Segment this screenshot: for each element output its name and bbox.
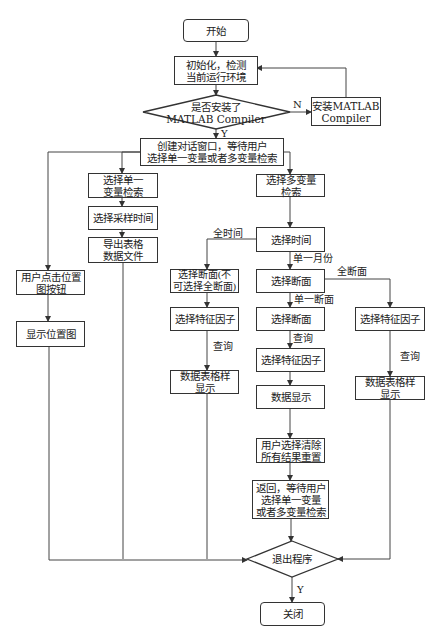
edge-label-yes-bottom: Y [297,584,304,595]
edge-label-query-mid: 查询 [293,333,313,344]
init-node: 初始化，检测 当前运行环境 [174,56,258,85]
create-dialog-node: 创建对话窗口，等待用户 选择单一变量或者多变量检索 [140,138,284,166]
install-line-2: Compiler [312,112,379,124]
start-node: 开始 [183,19,249,42]
select-section-a-label: 选择断面 [271,275,311,287]
section-partial-line-1: 选择断面(不 [173,269,237,281]
edge-label-all-time: 全时间 [213,228,243,239]
edge-label-single-month: 单一月份 [293,253,333,264]
multi-var-node: 选择多变量 检索 [256,174,325,197]
return-wait-node: 返回，等待用户 选择单一变量 或者多变量检索 [252,480,329,519]
select-section-partial-node: 选择断面(不 可选择全断面) [170,269,239,293]
table-display-right-node: 数据表格样 显示 [355,376,425,400]
export-line-1: 导出表格 [103,238,143,250]
select-factor-mid-node: 选择特征因子 [256,348,325,372]
edge-label-query-left: 查询 [213,341,233,352]
show-location-node: 显示位置图 [16,321,85,347]
check-matlab-text: 是否安装了 MATLAB Compiler [160,99,272,126]
multi-var-line-2: 检索 [266,186,316,198]
click-location-node: 用户点击位置 图按钮 [16,270,85,295]
exit-program-label: 退出程序 [272,553,312,565]
edge-label-all-section: 全断面 [337,266,367,277]
return-line-2: 选择单一变量 [256,494,326,506]
table-display-left-node: 数据表格样 显示 [170,370,239,394]
create-dialog-line-1: 创建对话窗口，等待用户 [147,140,277,152]
click-location-line-2: 图按钮 [21,283,81,295]
close-node: 关闭 [260,602,325,626]
table-left-line-1: 数据表格样 [180,370,230,382]
edge-label-query-right: 查询 [400,351,420,362]
select-factor-left-node: 选择特征因子 [170,307,239,331]
select-factor-right-node: 选择特征因子 [355,307,425,331]
single-var-line-2: 变量检索 [103,186,143,198]
table-right-line-2: 显示 [365,388,415,400]
select-factor-right-label: 选择特征因子 [360,313,420,325]
select-time-label: 选择时间 [271,234,311,246]
export-line-2: 数据文件 [103,250,143,262]
table-right-line-1: 数据表格样 [365,376,415,388]
data-display-node: 数据显示 [256,385,325,409]
create-dialog-line-2: 选择单一变量或者多变量检索 [147,152,277,164]
select-factor-mid-label: 选择特征因子 [261,354,321,366]
single-var-line-1: 选择单一 [103,174,143,186]
section-partial-line-2: 可选择全断面) [173,281,237,293]
edge-label-yes-top: Y [221,128,228,139]
check-matlab-line-2: MATLAB Compiler [166,113,265,125]
clear-reset-line-1: 用户选择清除 [261,439,321,451]
edge-label-no: N [293,99,302,110]
show-location-label: 显示位置图 [26,328,76,340]
select-factor-left-label: 选择特征因子 [175,313,235,325]
select-section-a-node: 选择断面 [256,269,325,293]
export-table-node: 导出表格 数据文件 [88,237,158,263]
close-label: 关闭 [283,608,303,620]
single-var-node: 选择单一 变量检索 [88,173,158,198]
select-section-b-node: 选择断面 [256,307,325,331]
multi-var-line-1: 选择多变量 [266,174,316,186]
install-matlab-node: 安装MATLAB Compiler [311,97,381,126]
start-label: 开始 [206,25,226,37]
exit-program-text: 退出程序 [262,552,322,566]
init-line-1: 初始化，检测 [186,59,246,71]
data-display-label: 数据显示 [271,391,311,403]
click-location-line-1: 用户点击位置 [21,271,81,283]
select-sample-time-label: 选择采样时间 [93,212,153,224]
select-sample-time-node: 选择采样时间 [88,206,158,230]
select-time-node: 选择时间 [256,227,325,252]
clear-reset-line-2: 所有结果重置 [261,451,321,463]
table-left-line-2: 显示 [180,382,230,394]
clear-reset-node: 用户选择清除 所有结果重置 [256,438,325,463]
select-section-b-label: 选择断面 [271,313,311,325]
return-line-3: 或者多变量检索 [256,506,326,518]
install-line-1: 安装MATLAB [312,100,379,112]
return-line-1: 返回，等待用户 [256,482,326,494]
init-line-2: 当前运行环境 [186,71,246,83]
edge-label-single-section: 单一断面 [294,294,334,305]
check-matlab-line-1: 是否安装了 [166,101,265,113]
